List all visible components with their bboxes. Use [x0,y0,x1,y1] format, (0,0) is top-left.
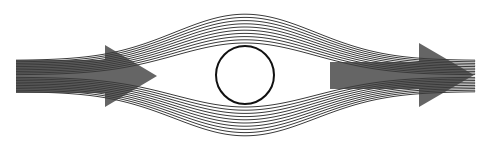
flow-diagram [0,0,487,152]
cylinder-obstacle [216,46,274,104]
inflow-arrow [16,45,157,107]
streamline [16,14,475,60]
flow-arrows [16,43,474,107]
